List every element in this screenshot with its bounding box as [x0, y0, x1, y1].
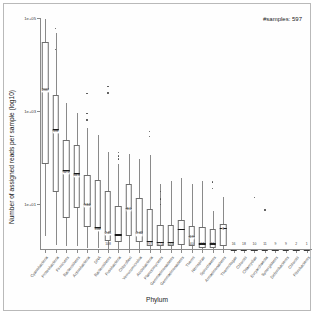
- x-tick-mark: [66, 250, 67, 253]
- sample-count-label: 11: [263, 242, 267, 246]
- x-tick-mark: [87, 250, 88, 253]
- boxplot-category[interactable]: 11Euryarchaeota: [260, 18, 270, 250]
- box-iqr: [115, 206, 121, 242]
- boxplot-category[interactable]: 188Gemmatimonadetes: [166, 18, 176, 250]
- median-value-label: 52.1: [63, 171, 70, 174]
- median-value-label: 2.9: [189, 237, 194, 240]
- sample-count-label: 108: [105, 242, 111, 246]
- boxplot-category[interactable]: 44.6Bacteroidetes: [71, 18, 81, 250]
- sample-count-label: 11: [211, 242, 215, 246]
- median-line: [115, 234, 121, 235]
- sample-count-label: 188: [168, 242, 174, 246]
- boxplot-category[interactable]: 97Acidobacteria: [145, 18, 155, 250]
- boxplot-category[interactable]: Fusobacteria: [113, 18, 123, 250]
- boxplot-category[interactable]: 2Chlorobi: [291, 18, 301, 250]
- outlier-point: [212, 188, 213, 189]
- box-iqr: [63, 140, 69, 217]
- box-iqr: [52, 95, 58, 192]
- x-tick-mark: [139, 250, 140, 253]
- flat-box: [283, 250, 289, 251]
- outlier-point: [86, 119, 87, 120]
- boxplot-category[interactable]: 9Deferribacteres: [281, 18, 291, 250]
- outlier-point: [118, 152, 119, 153]
- median-value-label: 3: [222, 228, 224, 231]
- x-tick-mark: [56, 250, 57, 253]
- boxplot-category[interactable]: 16Thermotogae: [228, 18, 238, 250]
- sample-count-label: 10: [253, 242, 257, 246]
- flat-box: [241, 250, 247, 251]
- x-tick-mark: [108, 250, 109, 253]
- x-tick-mark: [181, 250, 182, 253]
- x-tick-mark: [98, 250, 99, 253]
- outlier-point: [118, 158, 119, 159]
- sample-count-label: 1: [306, 242, 308, 246]
- sample-count-label: 40: [190, 242, 194, 246]
- boxplot-category[interactable]: 2987Cyanobacteria: [40, 18, 50, 250]
- x-tick-mark: [202, 250, 203, 253]
- boxplot-category[interactable]: 11Spirochaetes: [207, 18, 217, 250]
- x-tick-mark: [150, 250, 151, 253]
- boxplot-category[interactable]: 174Planctomycetes: [155, 18, 165, 250]
- boxplot-category[interactable]: 3.06DNA: [92, 18, 102, 250]
- boxplot-category[interactable]: 2.42Verrucomicrobia: [134, 18, 144, 250]
- box-iqr: [84, 175, 90, 227]
- x-tick-mark: [223, 250, 224, 253]
- x-tick-mark: [77, 250, 78, 253]
- boxplot-category[interactable]: 2.45108Bacteroidetes: [103, 18, 113, 250]
- outlier-point: [118, 155, 119, 156]
- x-tick-mark: [171, 250, 172, 253]
- outlier-point: [86, 113, 87, 114]
- box-iqr: [178, 220, 184, 245]
- boxplot-category[interactable]: 9Synergistetes: [270, 18, 280, 250]
- x-tick-mark: [192, 250, 193, 253]
- median-value-label: 8.1: [126, 208, 131, 211]
- outlier-point: [107, 86, 108, 87]
- boxplot-category[interactable]: 18Chlorobi: [239, 18, 249, 250]
- boxplot-category[interactable]: 8.1Chloroflexi: [124, 18, 134, 250]
- outlier-point: [55, 28, 56, 29]
- boxplot-category[interactable]: 52.1Firmicutes: [61, 18, 71, 250]
- sample-count-label: 9: [274, 242, 276, 246]
- x-tick-mark: [118, 250, 119, 253]
- boxplot-category[interactable]: 2.940Thermi: [186, 18, 196, 250]
- median-line: [178, 229, 184, 230]
- figure-frame: #samples: 597 Number of assigned reads p…: [3, 3, 311, 311]
- outlier-point: [160, 204, 161, 205]
- median-value-label: 9.84: [84, 205, 91, 208]
- median-value-label: 2.42: [136, 233, 143, 236]
- median-value-label: 2987: [41, 89, 49, 92]
- outlier-point: [149, 131, 150, 132]
- boxplot-category[interactable]: 17Nitrospirae: [197, 18, 207, 250]
- outlier-point: [264, 209, 265, 210]
- median-value-label: 398: [53, 130, 59, 133]
- sample-count-label: 17: [200, 242, 204, 246]
- sample-count-label: 174: [157, 242, 163, 246]
- sample-count-label: 16: [232, 242, 236, 246]
- outlier-point: [149, 136, 150, 137]
- median-value-label: 44.6: [73, 174, 80, 177]
- x-tick-mark: [213, 250, 214, 253]
- sample-count-label: 9: [285, 242, 287, 246]
- boxplot-category[interactable]: 3Armatimonadetes: [218, 18, 228, 250]
- x-tick-mark: [160, 250, 161, 253]
- flat-box: [230, 250, 236, 251]
- boxplot-category[interactable]: 398Proteobacteria: [50, 18, 60, 250]
- sample-count-label: 18: [242, 242, 246, 246]
- x-axis-title: Phylum: [4, 296, 310, 303]
- flat-box: [272, 250, 278, 251]
- boxplot-category[interactable]: Gemmatimonadetes: [176, 18, 186, 250]
- flat-box: [304, 250, 310, 251]
- boxplot-category[interactable]: 1Fibrobacteres: [302, 18, 312, 250]
- flat-box: [293, 250, 299, 251]
- sample-count-label: 97: [148, 242, 152, 246]
- outlier-point: [86, 93, 87, 94]
- outlier-point: [212, 181, 213, 182]
- x-tick-mark: [129, 250, 130, 253]
- boxplot-canvas: 1e+051e+031e+01 2987Cyanobacteria398Prot…: [40, 18, 312, 250]
- flat-box: [251, 250, 257, 251]
- boxplot-category[interactable]: 9.84Actinobacteria: [82, 18, 92, 250]
- sample-count-label: 2: [295, 242, 297, 246]
- box-iqr: [42, 42, 48, 164]
- boxplot-category[interactable]: 10Chlamydiae: [249, 18, 259, 250]
- box-iqr: [94, 180, 100, 228]
